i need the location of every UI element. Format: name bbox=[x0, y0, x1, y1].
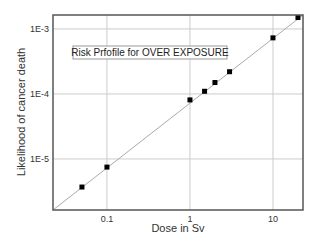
x-tick-label: 10 bbox=[268, 214, 278, 224]
fit-line-path bbox=[53, 15, 303, 210]
y-axis-label: Likelihood of cancer death bbox=[15, 48, 27, 176]
y-tick-labels: 1E-51E-41E-3 bbox=[30, 24, 49, 164]
data-point-marker bbox=[270, 35, 275, 40]
data-point-marker bbox=[187, 97, 192, 102]
fit-line bbox=[53, 15, 303, 210]
y-tick-label: 1E-3 bbox=[30, 24, 49, 34]
x-tick-label: 0.1 bbox=[101, 214, 114, 224]
data-point-marker bbox=[212, 80, 217, 85]
data-point-marker bbox=[295, 15, 300, 20]
data-point-marker bbox=[227, 69, 232, 74]
data-point-marker bbox=[104, 165, 109, 170]
data-point-marker bbox=[202, 89, 207, 94]
data-point-marker bbox=[79, 185, 84, 190]
chart-title: Risk Prfofile for OVER EXPOSURE bbox=[71, 47, 229, 58]
y-tick-label: 1E-4 bbox=[30, 89, 49, 99]
y-tick-label: 1E-5 bbox=[30, 154, 49, 164]
risk-chart: 0.1110 1E-51E-41E-3 Risk Prfofile for OV… bbox=[0, 0, 315, 245]
x-axis-label: Dose in Sv bbox=[151, 222, 205, 234]
